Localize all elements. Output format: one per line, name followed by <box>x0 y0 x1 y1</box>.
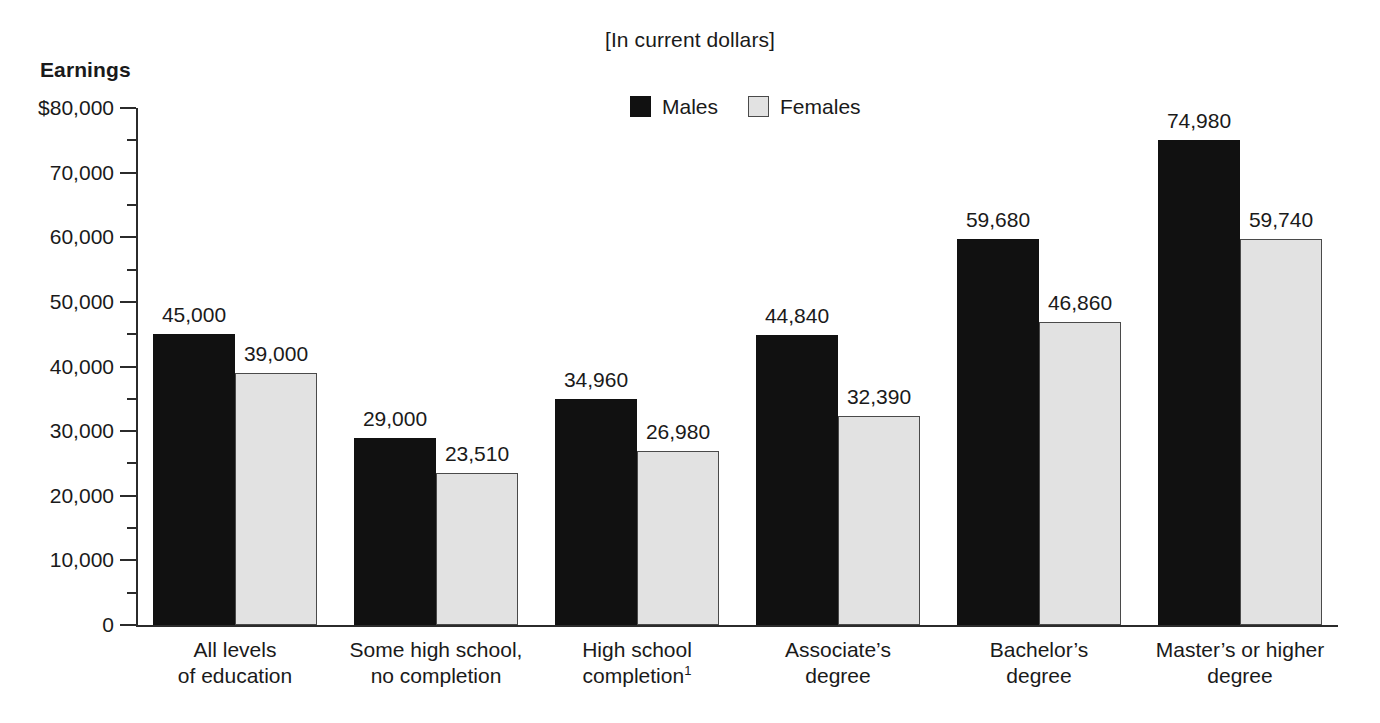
x-category-label-line2: of education <box>135 663 335 689</box>
bar-females <box>436 473 518 625</box>
x-category-label: All levelsof education <box>135 637 335 689</box>
x-category-label-line1: Master’s or higher <box>1140 637 1340 663</box>
bar-value-label: 26,980 <box>613 421 743 442</box>
bar-females <box>235 373 317 625</box>
y-tick-minor <box>127 592 136 594</box>
y-tick-major <box>120 236 136 238</box>
bar-value-label: 39,000 <box>211 343 341 364</box>
bar-value-label: 29,000 <box>330 408 460 429</box>
bar-value-label: 74,980 <box>1134 110 1264 131</box>
y-tick-label: 30,000 <box>0 420 114 441</box>
bar-value-label: 32,390 <box>814 386 944 407</box>
plot-area: $80,00070,00060,00050,00040,00030,00020,… <box>136 108 1338 625</box>
x-category-label-line1: Associate’s <box>738 637 938 663</box>
y-tick-label: 50,000 <box>0 291 114 312</box>
x-category-label: Associate’sdegree <box>738 637 938 689</box>
y-tick-major <box>120 301 136 303</box>
x-category-label-line2: degree <box>738 663 938 689</box>
y-tick-major <box>120 172 136 174</box>
bar-value-label: 44,840 <box>732 305 862 326</box>
bar-value-label: 46,860 <box>1015 292 1145 313</box>
y-axis-tick-labels: $80,00070,00060,00050,00040,00030,00020,… <box>0 108 114 625</box>
y-tick-minor <box>127 527 136 529</box>
bar-females <box>1039 322 1121 625</box>
x-category-label: Master’s or higherdegree <box>1140 637 1340 689</box>
bar-females <box>1240 239 1322 625</box>
bar-males <box>354 438 436 625</box>
chart-subtitle: [In current dollars] <box>0 28 1380 52</box>
bar-value-label: 45,000 <box>129 304 259 325</box>
bar-value-label: 34,960 <box>531 369 661 390</box>
x-category-label-line2: completion1 <box>537 663 737 689</box>
bar-males <box>153 334 235 625</box>
bar-males <box>756 335 838 625</box>
x-category-label-line1: High school <box>537 637 737 663</box>
x-axis-line <box>136 625 1338 627</box>
y-tick-minor <box>127 204 136 206</box>
x-category-label-line2: degree <box>939 663 1139 689</box>
y-tick-major <box>120 624 136 626</box>
y-tick-label: 0 <box>0 614 114 635</box>
footnote-marker: 1 <box>684 663 691 678</box>
y-tick-label: 20,000 <box>0 485 114 506</box>
y-tick-minor <box>127 333 136 335</box>
y-tick-label: 10,000 <box>0 549 114 570</box>
x-category-label-line2: no completion <box>336 663 536 689</box>
x-category-label: Bachelor’sdegree <box>939 637 1139 689</box>
bar-value-label: 59,680 <box>933 209 1063 230</box>
y-axis-line <box>136 108 138 625</box>
bar-females <box>838 416 920 625</box>
y-tick-major <box>120 366 136 368</box>
y-tick-minor <box>127 398 136 400</box>
x-category-label-line1: Bachelor’s <box>939 637 1139 663</box>
y-tick-major <box>120 559 136 561</box>
y-tick-major <box>120 495 136 497</box>
y-axis-title: Earnings <box>40 58 131 82</box>
x-category-label-line1: All levels <box>135 637 335 663</box>
y-tick-minor <box>127 462 136 464</box>
y-tick-label: 60,000 <box>0 226 114 247</box>
x-category-label-line1: Some high school, <box>336 637 536 663</box>
x-category-label: High schoolcompletion1 <box>537 637 737 689</box>
bar-value-label: 23,510 <box>412 443 542 464</box>
y-tick-major <box>120 430 136 432</box>
x-category-label: Some high school,no completion <box>336 637 536 689</box>
x-category-label-line2: degree <box>1140 663 1340 689</box>
y-tick-label: 70,000 <box>0 162 114 183</box>
y-tick-minor <box>127 139 136 141</box>
y-tick-label: $80,000 <box>0 97 114 118</box>
bar-chart: [In current dollars] Earnings Males Fema… <box>0 0 1380 723</box>
y-tick-major <box>120 107 136 109</box>
y-tick-minor <box>127 269 136 271</box>
y-tick-label: 40,000 <box>0 356 114 377</box>
bar-females <box>637 451 719 625</box>
bar-value-label: 59,740 <box>1216 209 1346 230</box>
